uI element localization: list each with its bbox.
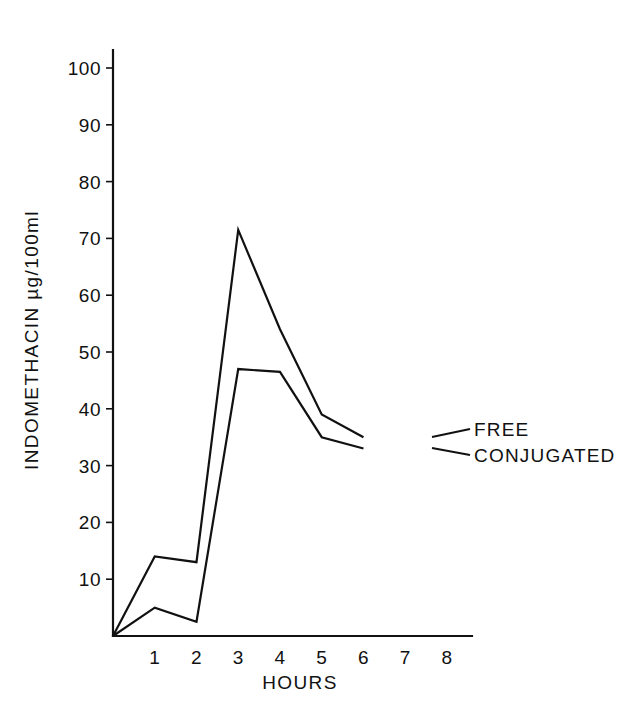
y-axis-title: INDOMETHACIN µg/100ml bbox=[21, 210, 42, 470]
y-tick-label: 40 bbox=[79, 399, 101, 420]
series-paths-group bbox=[113, 230, 363, 636]
x-tick-label: 8 bbox=[441, 647, 452, 668]
x-tick-label: 5 bbox=[316, 647, 327, 668]
y-tick-label: 50 bbox=[79, 342, 101, 363]
x-tick-label: 2 bbox=[191, 647, 202, 668]
series-label-free: FREE bbox=[474, 419, 529, 440]
x-tick-label: 6 bbox=[358, 647, 369, 668]
y-tick-label: 20 bbox=[79, 512, 101, 533]
y-tick-label: 70 bbox=[79, 228, 101, 249]
x-tick-label: 1 bbox=[149, 647, 160, 668]
x-tick-label: 7 bbox=[400, 647, 411, 668]
y-tick-label: 90 bbox=[79, 115, 101, 136]
y-tick-label: 60 bbox=[79, 285, 101, 306]
y-axis-tick-labels: 102030405060708090100 bbox=[68, 58, 101, 590]
y-tick-label: 80 bbox=[79, 172, 101, 193]
chart-container: 102030405060708090100 12345678 FREE CONJ… bbox=[0, 0, 636, 704]
conjugated-leader-line bbox=[432, 448, 470, 455]
y-tick-label: 10 bbox=[79, 569, 101, 590]
x-axis-title: HOURS bbox=[262, 672, 338, 693]
series-line-free bbox=[113, 230, 363, 636]
free-leader-line bbox=[432, 429, 470, 437]
x-tick-label: 3 bbox=[233, 647, 244, 668]
y-tick-label: 100 bbox=[68, 58, 101, 79]
series-label-conjugated: CONJUGATED bbox=[474, 445, 615, 466]
series-line-conjugated bbox=[113, 369, 363, 636]
x-tick-label: 4 bbox=[274, 647, 285, 668]
x-axis-tick-labels: 12345678 bbox=[149, 647, 452, 668]
y-tick-label: 30 bbox=[79, 456, 101, 477]
line-chart-figure: 102030405060708090100 12345678 FREE CONJ… bbox=[0, 0, 636, 704]
